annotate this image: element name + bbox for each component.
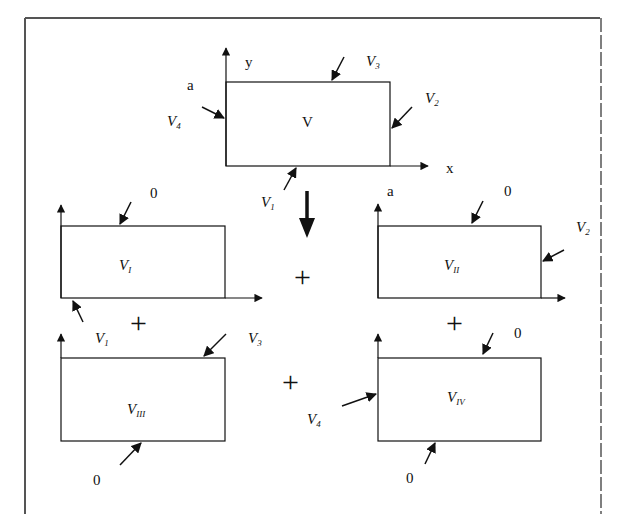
subproblem-iv-label: VIV (447, 389, 466, 407)
plus-sign-center-top: + (294, 260, 311, 293)
subproblem-ii (378, 201, 565, 298)
subproblem-iii-bottom-value: 0 (93, 472, 101, 488)
plus-signs: + + + + (130, 260, 463, 398)
arrow-v2 (392, 107, 412, 128)
corner-a-label: a (187, 77, 194, 93)
arrow-v3 (332, 57, 344, 80)
x-axis-label: x (446, 160, 454, 176)
main-domain-label: V (302, 114, 313, 130)
subproblem-iv-bottom-value: 0 (406, 470, 414, 486)
v4-label: V4 (167, 113, 181, 131)
plus-sign-right: + (446, 306, 463, 339)
subproblem-iii-label: VIII (127, 401, 146, 419)
v1-label: V1 (261, 194, 275, 212)
subproblem-iii (61, 334, 226, 465)
main-problem (202, 48, 428, 190)
subproblem-iv-top-value: 0 (514, 325, 522, 341)
superposition-diagram: y x a V V3 V2 V4 V1 + + + + 0 VI V1 a 0 … (0, 0, 628, 514)
subproblem-iv (342, 333, 541, 464)
subproblem-i (61, 202, 262, 322)
v3-label: V3 (366, 53, 380, 71)
arrow-v1 (284, 168, 296, 190)
v2-label: V2 (425, 90, 439, 108)
arrow-v4 (202, 107, 224, 118)
subproblem-ii-corner-a: a (387, 183, 394, 199)
subproblem-i-label: VI (119, 257, 132, 275)
subproblem-i-top-value: 0 (150, 185, 158, 201)
y-axis-label: y (245, 54, 253, 70)
subproblem-ii-v2-label: V2 (576, 219, 590, 237)
subproblem-iv-v4-label: V4 (307, 411, 321, 429)
plus-sign-center-bottom: + (282, 365, 299, 398)
subproblem-i-v1-label: V1 (95, 330, 109, 348)
subproblem-ii-top-value: 0 (504, 183, 512, 199)
decomposition-arrow-icon (299, 191, 315, 238)
plus-sign-left: + (130, 306, 147, 339)
subproblem-ii-label: VII (444, 257, 460, 275)
page-frame (25, 18, 601, 514)
subproblem-iii-v3-label: V3 (248, 330, 262, 348)
